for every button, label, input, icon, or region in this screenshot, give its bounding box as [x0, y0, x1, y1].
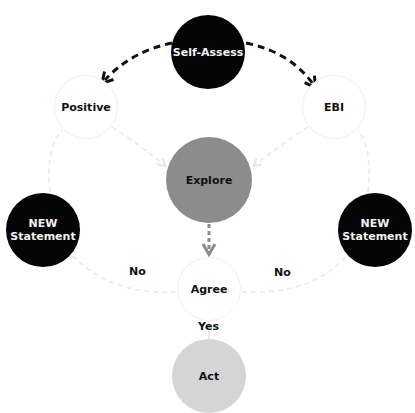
node-new-statement-left-line2: Statement — [10, 230, 75, 243]
node-ebi-label: EBI — [324, 101, 344, 114]
edge-label-no-left: No — [129, 265, 146, 278]
node-self-assess: Self-Assess — [171, 15, 245, 89]
node-self-assess-label: Self-Assess — [173, 46, 243, 59]
node-ebi: EBI — [302, 75, 366, 139]
node-act: Act — [172, 339, 246, 413]
edge-label-no-right: No — [274, 266, 291, 279]
node-new-statement-left-line1: NEW — [29, 217, 58, 230]
node-explore-label: Explore — [186, 174, 233, 187]
node-act-label: Act — [199, 370, 219, 383]
node-positive: Positive — [54, 75, 118, 139]
edge-ebi-to-explore — [256, 127, 308, 164]
edge-self-assess-to-ebi — [246, 43, 313, 84]
edge-new-right-to-ebi — [358, 130, 369, 192]
edge-agree-to-new-right — [242, 258, 345, 292]
node-new-statement-right-line1: NEW — [361, 217, 390, 230]
edge-self-assess-to-positive — [105, 43, 172, 80]
node-explore: Explore — [166, 137, 252, 223]
edge-new-left-to-positive — [49, 130, 62, 192]
node-new-statement-right-line2: Statement — [342, 230, 407, 243]
edge-positive-to-explore — [112, 127, 163, 164]
node-positive-label: Positive — [61, 101, 111, 114]
node-agree-label: Agree — [191, 283, 228, 296]
node-new-statement-right: NEW Statement — [338, 193, 412, 267]
node-new-statement-left: NEW Statement — [6, 193, 80, 267]
node-agree: Agree — [177, 257, 241, 321]
edge-label-yes: Yes — [198, 320, 219, 333]
edge-agree-to-new-left — [72, 255, 176, 292]
